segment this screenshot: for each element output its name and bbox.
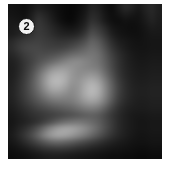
panel-index-label: 2 (23, 21, 29, 32)
panel-index-badge: 2 (18, 18, 35, 35)
figure-panel: 2 (0, 0, 171, 172)
